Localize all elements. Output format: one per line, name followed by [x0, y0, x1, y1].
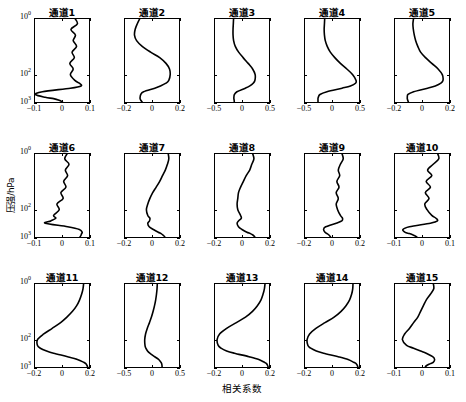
- y-axis-label: 压强/hPa: [4, 167, 17, 223]
- figure-panel-grid: 通道1100102103−0.100.1通道2−0.200.2通道3−0.500…: [0, 0, 466, 402]
- chart-panel: 通道15−0.100.1: [0, 0, 466, 402]
- x-axis-label: 相关系数: [202, 381, 282, 395]
- correlation-profile-curve: [0, 0, 466, 402]
